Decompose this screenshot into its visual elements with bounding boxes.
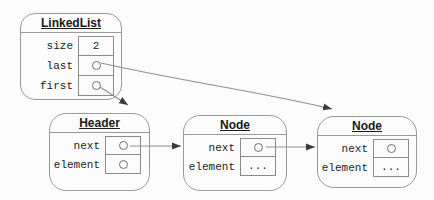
box-node-middle-title: Node bbox=[184, 116, 286, 135]
pointer-icon bbox=[119, 141, 128, 150]
field-size-value-cell: 2 bbox=[78, 36, 114, 56]
pointer-icon bbox=[92, 81, 101, 90]
box-linkedlist-title: LinkedList bbox=[21, 14, 121, 33]
box-linkedlist-fields: size 2 last first bbox=[21, 33, 121, 96]
box-linkedlist: LinkedList size 2 last first bbox=[20, 13, 122, 100]
field-next: next bbox=[184, 138, 276, 157]
diagram-canvas: LinkedList size 2 last first bbox=[0, 0, 434, 200]
field-next-value-cell bbox=[240, 138, 276, 157]
field-next-value-cell bbox=[373, 139, 409, 158]
field-element-value-cell: ... bbox=[373, 157, 409, 177]
field-element-value-cell bbox=[105, 154, 141, 174]
box-header-fields: next element bbox=[50, 133, 149, 174]
field-element-value-cell: ... bbox=[240, 156, 276, 176]
box-node-right: Node next element ... bbox=[317, 116, 417, 188]
field-first: first bbox=[21, 76, 114, 96]
pointer-icon bbox=[92, 61, 101, 70]
box-header: Header next element bbox=[49, 113, 150, 191]
field-element-label: element bbox=[189, 161, 240, 173]
pointer-icon bbox=[387, 144, 396, 153]
field-size: size 2 bbox=[21, 36, 114, 56]
arrow-last-to-node2 bbox=[101, 63, 332, 109]
field-last-label: last bbox=[47, 60, 78, 72]
field-first-value-cell bbox=[78, 75, 114, 96]
field-next-label: next bbox=[209, 142, 240, 154]
field-next-value-cell bbox=[105, 136, 141, 155]
field-size-label: size bbox=[47, 40, 78, 52]
pointer-icon bbox=[254, 143, 263, 152]
field-last-value-cell bbox=[78, 55, 114, 76]
field-first-label: first bbox=[40, 80, 78, 92]
box-node-middle-fields: next element ... bbox=[184, 135, 286, 176]
field-next-label: next bbox=[74, 140, 105, 152]
field-element: element bbox=[50, 155, 141, 174]
field-element-value: ... bbox=[248, 161, 268, 172]
field-next: next bbox=[318, 139, 409, 158]
field-element-label: element bbox=[54, 159, 105, 171]
box-node-right-title: Node bbox=[318, 117, 416, 136]
field-next-label: next bbox=[342, 143, 373, 155]
field-next: next bbox=[50, 136, 141, 155]
field-last: last bbox=[21, 56, 114, 76]
field-size-value: 2 bbox=[93, 41, 100, 52]
box-header-title: Header bbox=[50, 114, 149, 133]
pointer-icon bbox=[119, 160, 128, 169]
field-element-value: ... bbox=[381, 162, 401, 173]
field-element: element ... bbox=[318, 158, 409, 177]
field-element: element ... bbox=[184, 157, 276, 176]
box-node-right-fields: next element ... bbox=[318, 136, 416, 177]
field-element-label: element bbox=[322, 162, 373, 174]
box-node-middle: Node next element ... bbox=[183, 115, 287, 191]
